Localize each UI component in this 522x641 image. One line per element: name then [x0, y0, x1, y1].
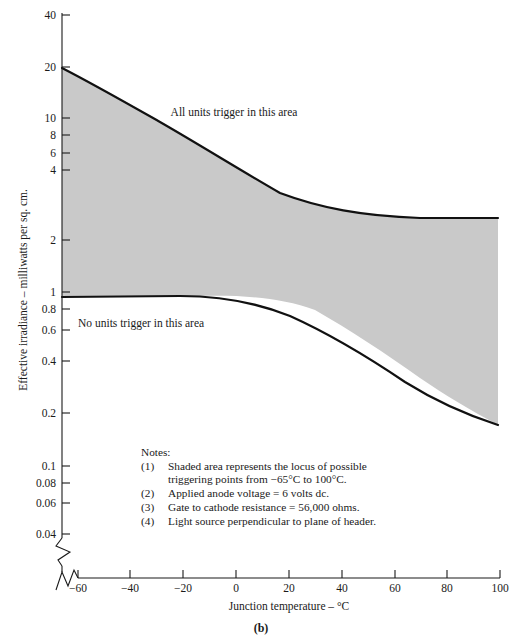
figure-container: 40 20 10 8 6 4 2 1 0.8 0.6 0.4 0.2 0.1 0…	[0, 0, 522, 641]
shaded-trigger-region	[62, 68, 498, 425]
chart-svg: 40 20 10 8 6 4 2 1 0.8 0.6 0.4 0.2 0.1 0…	[0, 0, 522, 641]
x-tick-label: 0	[233, 582, 239, 594]
note-number: (4)	[141, 515, 154, 528]
figure-caption: (b)	[254, 621, 269, 635]
y-tick-label: 0.6	[42, 324, 57, 336]
notes-block: Notes: (1) Shaded area represents the lo…	[141, 446, 376, 528]
x-axis-ticks	[78, 570, 500, 578]
y-tick-label: 6	[50, 147, 56, 159]
note-text: Applied anode voltage = 6 volts dc.	[168, 487, 329, 499]
y-axis-tick-labels: 40 20 10 8 6 4 2 1 0.8 0.6 0.4 0.2 0.1 0…	[36, 9, 56, 540]
x-tick-label: 40	[336, 582, 348, 594]
note-text: triggering points from −65°C to 100°C.	[168, 473, 347, 485]
x-tick-label: −20	[174, 582, 192, 594]
y-tick-label: 0.2	[42, 407, 57, 419]
y-tick-label: 8	[50, 129, 56, 141]
y-tick-label: 0.4	[42, 355, 57, 367]
x-tick-label: 60	[389, 582, 401, 594]
y-tick-label: 0.08	[36, 477, 56, 489]
y-tick-label: 0.1	[42, 460, 57, 472]
y-tick-label: 4	[50, 164, 56, 176]
x-tick-label: 100	[491, 582, 509, 594]
annotation-all-units-trigger: All units trigger in this area	[171, 106, 298, 119]
y-tick-label: 0.04	[36, 528, 56, 540]
x-tick-label: −40	[121, 582, 139, 594]
x-axis-title: Junction temperature – °C	[229, 600, 350, 613]
y-tick-label: 1	[50, 286, 56, 298]
note-text: Light source perpendicular to plane of h…	[168, 515, 376, 527]
y-tick-label: 0.8	[42, 303, 57, 315]
y-tick-label: 10	[45, 112, 57, 124]
note-number: (1)	[141, 460, 154, 473]
annotation-no-units-trigger: No units trigger in this area	[78, 317, 204, 330]
note-number: (2)	[141, 487, 154, 500]
y-tick-label: 0.06	[36, 497, 56, 509]
x-tick-label: 80	[441, 582, 453, 594]
note-text: Gate to cathode resistance = 56,000 ohms…	[168, 501, 360, 513]
notes-heading: Notes:	[141, 446, 171, 458]
x-tick-label: −60	[69, 582, 87, 594]
x-tick-label: 20	[283, 582, 295, 594]
y-axis-title: Effective irradiance – milliwatts per sq…	[17, 189, 30, 391]
x-axis-tick-labels: −60 −40 −20 0 20 40 60 80 100	[69, 582, 509, 594]
y-tick-label: 40	[45, 9, 57, 21]
note-number: (3)	[141, 501, 154, 514]
y-axis-break-icon	[56, 538, 70, 566]
y-tick-label: 20	[45, 61, 57, 73]
y-tick-label: 2	[50, 234, 56, 246]
note-text: Shaded area represents the locus of poss…	[168, 460, 367, 472]
